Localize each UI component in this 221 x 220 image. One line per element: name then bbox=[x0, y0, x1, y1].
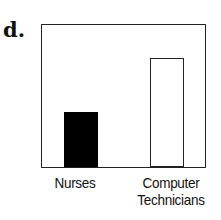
x-label-line: Computer bbox=[131, 174, 212, 191]
x-label-computer-technicians: Computer Technicians bbox=[131, 174, 212, 208]
x-label-line: Technicians bbox=[131, 191, 212, 208]
chart-frame bbox=[41, 24, 206, 168]
x-label-line: Nurses bbox=[47, 174, 103, 191]
x-label-nurses: Nurses bbox=[47, 174, 103, 191]
bar-computer-technicians bbox=[150, 58, 184, 167]
panel-label: d. bbox=[3, 18, 25, 42]
bar-nurses bbox=[64, 112, 98, 167]
